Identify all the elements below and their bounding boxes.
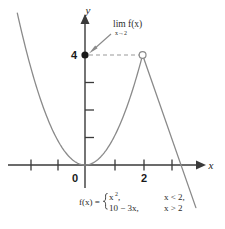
x-axis-arrowhead: [196, 161, 206, 170]
open-point-marker: [139, 52, 146, 59]
formula-piece1-expression: x: [109, 192, 114, 202]
x-axis-label: x: [208, 159, 214, 171]
limit-expression-label: lim f(x): [113, 19, 142, 30]
closed-point-marker: [81, 51, 88, 58]
x-tick-label-2: 2: [141, 172, 147, 184]
graph-canvas: x y 0 2 4 lim f(x) x→2 f(x) = x 2 , 10 −…: [0, 0, 225, 229]
formula-piece2-condition: x > 2: [164, 203, 183, 213]
origin-label: 0: [72, 172, 78, 184]
formula-brace: [103, 194, 107, 210]
y-axis-ticks: [85, 83, 94, 138]
y-axis-label: y: [85, 4, 91, 16]
y-tick-label-4: 4: [71, 49, 78, 61]
formula-piece1-comma: ,: [118, 192, 120, 202]
descending-line-10-minus-3x: [143, 55, 196, 208]
axes-group: [8, 14, 206, 188]
formula-piece2-expression: 10 − 3x,: [109, 203, 139, 213]
formula-piece1-condition: x < 2,: [164, 192, 185, 202]
formula-lhs: f(x) =: [79, 197, 100, 207]
figure-container: x y 0 2 4 lim f(x) x→2 f(x) = x 2 , 10 −…: [0, 0, 225, 229]
limit-subscript-label: x→2: [115, 30, 127, 36]
